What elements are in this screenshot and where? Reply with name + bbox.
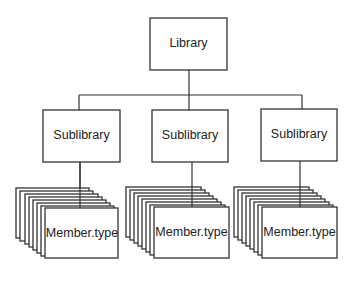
sublibrary-label: Sublibrary — [53, 128, 110, 142]
member-label: Member.type — [46, 226, 118, 240]
sublibrary-node-3: Sublibrary — [261, 109, 337, 161]
sublibrary-label: Sublibrary — [271, 127, 328, 141]
library-hierarchy-diagram: Library Sublibrary Sublibrary Sublibrary… — [0, 0, 355, 281]
member-stack-3: Member.type — [234, 161, 337, 258]
member-stack-1: Member.type — [16, 162, 118, 258]
member-stack-2: Member.type — [126, 162, 229, 258]
library-node: Library — [150, 18, 227, 70]
connectors — [79, 70, 302, 110]
sublibrary-node-1: Sublibrary — [43, 110, 120, 162]
sublibrary-label: Sublibrary — [162, 128, 219, 142]
sublibrary-node-2: Sublibrary — [152, 110, 228, 162]
member-label: Member.type — [155, 225, 227, 239]
member-label: Member.type — [263, 225, 335, 239]
library-label: Library — [169, 36, 208, 50]
